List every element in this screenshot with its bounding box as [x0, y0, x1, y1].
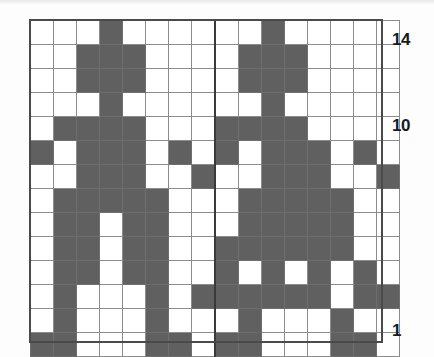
pixel-cell[interactable]	[77, 237, 100, 261]
pixel-cell[interactable]	[308, 309, 331, 333]
pixel-cell[interactable]	[239, 189, 262, 213]
pixel-cell[interactable]	[54, 261, 77, 285]
pixel-cell[interactable]	[331, 21, 354, 45]
pixel-cell[interactable]	[308, 93, 331, 117]
pixel-cell[interactable]	[285, 213, 308, 237]
pixel-cell[interactable]	[146, 261, 169, 285]
pixel-cell[interactable]	[123, 93, 146, 117]
pixel-cell[interactable]	[331, 285, 354, 309]
pixel-cell[interactable]	[308, 261, 331, 285]
pixel-cell[interactable]	[77, 69, 100, 93]
pixel-cell[interactable]	[146, 285, 169, 309]
pixel-cell[interactable]	[331, 333, 354, 357]
pixel-cell[interactable]	[285, 165, 308, 189]
pixel-cell[interactable]	[331, 69, 354, 93]
pixel-cell[interactable]	[77, 261, 100, 285]
pixel-cell[interactable]	[192, 189, 216, 213]
pixel-cell[interactable]	[123, 69, 146, 93]
pixel-cell[interactable]	[146, 93, 169, 117]
pixel-cell[interactable]	[146, 333, 169, 357]
pixel-cell[interactable]	[192, 213, 216, 237]
pixel-cell[interactable]	[31, 261, 54, 285]
pixel-cell[interactable]	[169, 213, 192, 237]
pixel-cell[interactable]	[123, 189, 146, 213]
pixel-cell[interactable]	[77, 141, 100, 165]
pixel-cell[interactable]	[146, 309, 169, 333]
pixel-cell[interactable]	[169, 45, 192, 69]
pixel-cell[interactable]	[308, 21, 331, 45]
pixel-cell[interactable]	[100, 93, 123, 117]
pixel-cell[interactable]	[308, 165, 331, 189]
pixel-cell[interactable]	[262, 165, 285, 189]
pixel-cell[interactable]	[308, 141, 331, 165]
pixel-cell[interactable]	[31, 165, 54, 189]
pixel-cell[interactable]	[77, 213, 100, 237]
pixel-cell[interactable]	[31, 189, 54, 213]
pixel-cell[interactable]	[54, 213, 77, 237]
pixel-cell[interactable]	[354, 69, 377, 93]
pixel-cell[interactable]	[285, 285, 308, 309]
pixel-cell[interactable]	[100, 261, 123, 285]
pixel-cell[interactable]	[331, 309, 354, 333]
pixel-cell[interactable]	[146, 213, 169, 237]
pixel-cell[interactable]	[331, 45, 354, 69]
pixel-cell[interactable]	[377, 165, 400, 189]
pixel-cell[interactable]	[123, 261, 146, 285]
pixel-cell[interactable]	[354, 189, 377, 213]
pixel-cell[interactable]	[54, 189, 77, 213]
pixel-cell[interactable]	[100, 21, 123, 45]
pixel-cell[interactable]	[262, 261, 285, 285]
pixel-cell[interactable]	[354, 141, 377, 165]
pixel-cell[interactable]	[354, 45, 377, 69]
pixel-cell[interactable]	[239, 141, 262, 165]
pixel-cell[interactable]	[262, 213, 285, 237]
pixel-cell[interactable]	[377, 69, 400, 93]
pixel-cell[interactable]	[308, 189, 331, 213]
pixel-cell[interactable]	[215, 261, 239, 285]
pixel-cell[interactable]	[31, 21, 54, 45]
pixel-cell[interactable]	[192, 237, 216, 261]
pixel-cell[interactable]	[169, 93, 192, 117]
pixel-cell[interactable]	[239, 213, 262, 237]
pixel-cell[interactable]	[100, 69, 123, 93]
pixel-cell[interactable]	[146, 141, 169, 165]
pixel-cell[interactable]	[377, 213, 400, 237]
pixel-cell[interactable]	[192, 165, 216, 189]
pixel-cell[interactable]	[77, 189, 100, 213]
pixel-cell[interactable]	[100, 165, 123, 189]
pixel-cell[interactable]	[308, 117, 331, 141]
pixel-cell[interactable]	[285, 141, 308, 165]
pixel-cell[interactable]	[31, 213, 54, 237]
pixel-cell[interactable]	[54, 333, 77, 357]
pixel-cell[interactable]	[262, 117, 285, 141]
pixel-cell[interactable]	[146, 45, 169, 69]
pixel-cell[interactable]	[123, 213, 146, 237]
pixel-cell[interactable]	[31, 141, 54, 165]
pixel-cell[interactable]	[354, 237, 377, 261]
pixel-cell[interactable]	[354, 261, 377, 285]
pixel-cell[interactable]	[77, 285, 100, 309]
pixel-cell[interactable]	[285, 261, 308, 285]
pixel-cell[interactable]	[77, 165, 100, 189]
pixel-cell[interactable]	[331, 189, 354, 213]
pixel-cell[interactable]	[146, 21, 169, 45]
pixel-cell[interactable]	[31, 117, 54, 141]
pixel-cell[interactable]	[285, 237, 308, 261]
pixel-cell[interactable]	[239, 45, 262, 69]
pixel-cell[interactable]	[54, 285, 77, 309]
pixel-cell[interactable]	[54, 45, 77, 69]
pixel-cell[interactable]	[123, 117, 146, 141]
pixel-cell[interactable]	[239, 237, 262, 261]
pixel-cell[interactable]	[354, 333, 377, 357]
pixel-cell[interactable]	[77, 117, 100, 141]
pixel-cell[interactable]	[100, 309, 123, 333]
pixel-cell[interactable]	[262, 285, 285, 309]
pixel-cell[interactable]	[239, 285, 262, 309]
pixel-cell[interactable]	[239, 333, 262, 357]
pixel-cell[interactable]	[239, 69, 262, 93]
pixel-cell[interactable]	[192, 333, 216, 357]
pixel-cell[interactable]	[146, 189, 169, 213]
pixel-cell[interactable]	[100, 117, 123, 141]
pixel-cell[interactable]	[77, 93, 100, 117]
pixel-cell[interactable]	[262, 93, 285, 117]
